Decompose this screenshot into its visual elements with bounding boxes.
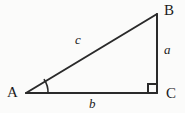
right-triangle-figure: A B C c a b — [0, 0, 185, 113]
side-label-hypotenuse: c — [75, 33, 81, 46]
side-label-adjacent: b — [89, 97, 96, 110]
right-angle-square-icon — [148, 84, 157, 93]
angle-arc-a-icon — [44, 80, 48, 93]
vertex-label-b: B — [164, 3, 174, 18]
vertex-label-c: C — [166, 86, 176, 101]
vertex-label-a: A — [7, 85, 18, 100]
side-label-opposite: a — [164, 43, 171, 56]
